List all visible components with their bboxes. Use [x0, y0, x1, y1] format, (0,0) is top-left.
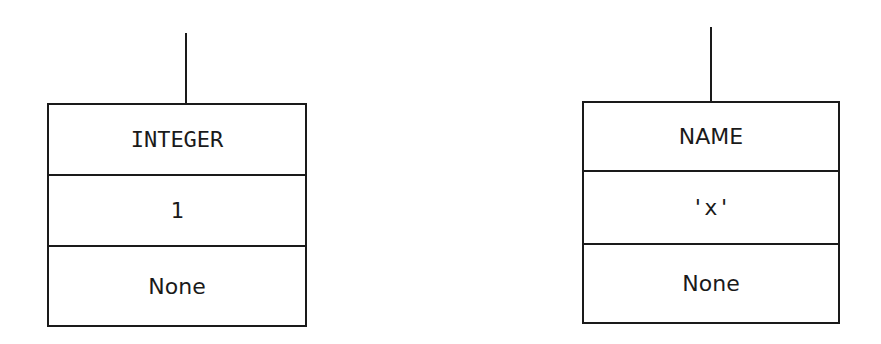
left-token-node: INTEGER 1 None	[47, 103, 307, 327]
right-token-node: NAME 'x' None	[582, 101, 840, 324]
left-node-connector-line	[185, 33, 187, 104]
left-node-next: None	[49, 247, 305, 325]
left-node-type: INTEGER	[49, 105, 305, 174]
right-node-next: None	[584, 245, 838, 322]
left-node-value: 1	[49, 176, 305, 245]
right-node-type: NAME	[584, 103, 838, 170]
right-node-connector-line	[710, 27, 712, 102]
right-node-value: 'x'	[584, 172, 838, 243]
